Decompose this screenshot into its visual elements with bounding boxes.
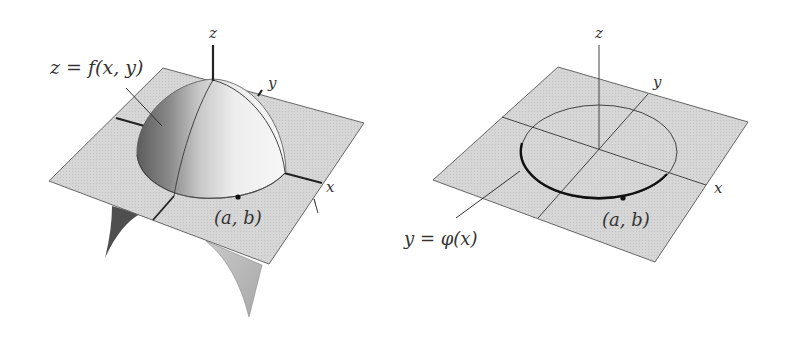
point-ab — [235, 194, 240, 199]
x-axis-label: x — [714, 179, 723, 197]
point-ab — [620, 195, 625, 200]
x-axis-label: x — [326, 178, 335, 196]
diagram-canvas: z y x z = f(x, y) (a, b) z y x y = φ(x) … — [0, 0, 789, 337]
z-axis-label: z — [594, 24, 603, 42]
y-axis-label: y — [267, 74, 277, 92]
z-axis-label: z — [208, 24, 217, 42]
point-ab-label: (a, b) — [214, 207, 262, 228]
right-figure: z y x y = φ(x) (a, b) — [403, 24, 748, 262]
left-figure: z y x z = f(x, y) (a, b) — [49, 24, 364, 317]
curve-label: y = φ(x) — [403, 228, 478, 249]
y-axis-label: y — [652, 73, 662, 91]
point-ab-label: (a, b) — [602, 209, 650, 230]
right-plane — [433, 67, 748, 262]
surface-label: z = f(x, y) — [49, 56, 143, 78]
